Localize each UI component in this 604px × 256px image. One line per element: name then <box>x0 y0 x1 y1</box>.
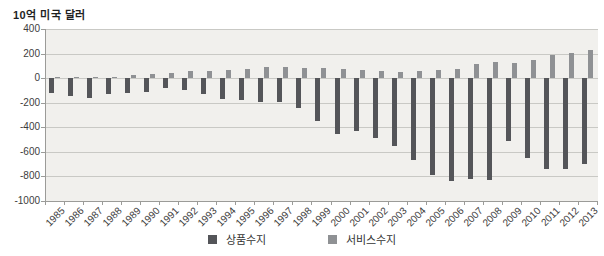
x-axis-tick <box>64 202 65 205</box>
bar-goods-1985 <box>49 78 54 93</box>
x-axis-tick <box>140 202 141 205</box>
bar-goods-2009 <box>506 78 511 141</box>
bar-goods-1996 <box>258 78 263 102</box>
x-axis-tick <box>578 202 579 205</box>
bar-goods-1998 <box>296 78 301 108</box>
bar-services-1994 <box>226 70 231 78</box>
bar-services-1998 <box>302 68 307 78</box>
bar-services-1995 <box>245 69 250 79</box>
bar-goods-2011 <box>544 78 549 169</box>
y-tick-label: -600 <box>4 147 40 157</box>
chart: 10억 미국 달러 4002000-200-400-600-800-1000 1… <box>0 0 604 256</box>
bar-services-1996 <box>264 67 269 78</box>
bar-goods-2001 <box>354 78 359 131</box>
bar-goods-1993 <box>201 78 206 94</box>
bar-services-1989 <box>131 75 136 78</box>
y-axis-tick <box>41 127 45 128</box>
y-axis-tick <box>41 78 45 79</box>
bar-services-2002 <box>379 71 384 79</box>
x-axis-tick <box>559 202 560 205</box>
bar-services-2011 <box>550 55 555 78</box>
bar-goods-1989 <box>125 78 130 92</box>
y-tick-label: -800 <box>4 171 40 181</box>
bar-services-1987 <box>93 77 98 79</box>
bar-goods-2013 <box>582 78 587 164</box>
bar-services-1990 <box>150 74 155 78</box>
x-axis-tick <box>464 202 465 205</box>
x-axis-tick <box>388 202 389 205</box>
gridline <box>46 127 598 128</box>
x-axis-tick <box>273 202 274 205</box>
x-axis-tick <box>178 202 179 205</box>
bar-goods-2012 <box>563 78 568 169</box>
gridline <box>46 103 598 104</box>
bar-services-1988 <box>112 77 117 79</box>
x-axis-tick <box>216 202 217 205</box>
bar-goods-2005 <box>430 78 435 175</box>
bar-services-2013 <box>588 50 593 78</box>
bar-goods-2007 <box>468 78 473 179</box>
bar-goods-2004 <box>411 78 416 160</box>
bar-services-2003 <box>398 72 403 78</box>
bar-services-2000 <box>341 69 346 78</box>
x-axis-tick <box>235 202 236 205</box>
bar-goods-1988 <box>106 78 111 94</box>
y-tick-label: 200 <box>4 49 40 59</box>
x-axis-tick <box>502 202 503 205</box>
y-axis-tick <box>41 176 45 177</box>
x-axis-tick <box>445 202 446 205</box>
legend-item-services: 서비스수지 <box>328 231 396 247</box>
x-axis-tick <box>540 202 541 205</box>
bar-goods-1994 <box>220 78 225 98</box>
x-axis-tick <box>426 202 427 205</box>
bar-services-2007 <box>474 64 479 78</box>
bar-services-1997 <box>283 67 288 78</box>
x-axis-tick <box>102 202 103 205</box>
y-axis-tick <box>41 54 45 55</box>
y-axis-tick <box>41 152 45 153</box>
bar-services-2001 <box>360 70 365 78</box>
bar-services-1991 <box>169 73 174 79</box>
y-tick-label: 400 <box>4 24 40 34</box>
y-tick-label: -1000 <box>4 196 40 206</box>
bar-services-1999 <box>321 68 326 78</box>
chart-title: 10억 미국 달러 <box>13 6 86 22</box>
legend-item-goods: 상품수지 <box>208 231 266 247</box>
y-axis-tick <box>41 103 45 104</box>
bar-goods-1987 <box>87 78 92 98</box>
bar-services-1986 <box>74 77 79 79</box>
bar-goods-1997 <box>277 78 282 102</box>
bar-services-2010 <box>531 60 536 78</box>
gridline <box>46 54 598 55</box>
bar-goods-1990 <box>144 78 149 92</box>
bar-services-1992 <box>188 71 193 78</box>
x-axis-tick <box>254 202 255 205</box>
x-axis-tick <box>331 202 332 205</box>
bar-goods-1995 <box>239 78 244 99</box>
y-tick-label: -400 <box>4 122 40 132</box>
bar-goods-1986 <box>68 78 73 96</box>
x-axis-tick <box>45 202 46 205</box>
bar-goods-1999 <box>315 78 320 121</box>
bar-services-2009 <box>512 63 517 78</box>
bar-goods-2010 <box>525 78 530 158</box>
bar-goods-1992 <box>182 78 187 90</box>
bar-goods-2000 <box>335 78 340 134</box>
x-axis-tick <box>521 202 522 205</box>
legend-label: 서비스수지 <box>346 231 396 247</box>
x-axis-tick <box>483 202 484 205</box>
legend: 상품수지서비스수지 <box>0 231 604 247</box>
y-tick-label: 0 <box>4 73 40 83</box>
bar-goods-1991 <box>163 78 168 87</box>
bar-services-1985 <box>55 77 60 79</box>
bar-services-2005 <box>436 70 441 78</box>
bar-services-2006 <box>455 69 460 78</box>
gridline <box>46 176 598 177</box>
x-axis-tick <box>159 202 160 205</box>
gridline <box>46 152 598 153</box>
bar-services-2008 <box>493 62 498 78</box>
bar-services-2004 <box>417 71 422 78</box>
x-axis-tick <box>350 202 351 205</box>
x-axis-tick <box>121 202 122 205</box>
plot-area <box>45 29 598 202</box>
